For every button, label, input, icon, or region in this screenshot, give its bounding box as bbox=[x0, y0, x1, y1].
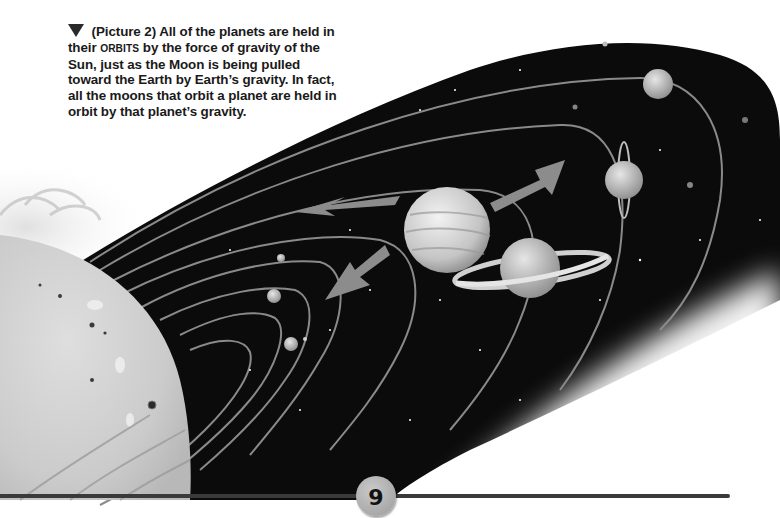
planet-neptune bbox=[643, 69, 673, 99]
caption-keyword-orbits: ORBITS bbox=[100, 43, 139, 54]
planet-venus bbox=[277, 254, 285, 262]
planet-pluto bbox=[603, 42, 608, 47]
caption-text: (Picture 2) All of the planets are held … bbox=[68, 24, 338, 120]
page-number-badge: 9 bbox=[356, 476, 396, 516]
book-page: (Picture 2) All of the planets are held … bbox=[0, 0, 780, 518]
planet-earth bbox=[267, 289, 281, 303]
planet-mars bbox=[284, 337, 298, 351]
planet-mercury bbox=[148, 401, 156, 409]
moon bbox=[303, 337, 307, 341]
footer-rule-right bbox=[392, 494, 730, 498]
down-triangle-icon bbox=[68, 24, 84, 37]
page-number: 9 bbox=[368, 485, 383, 510]
footer-rule-left bbox=[0, 494, 360, 498]
white-fade bbox=[380, 260, 780, 518]
